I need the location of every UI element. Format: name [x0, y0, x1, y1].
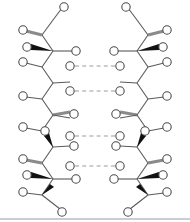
bond-R10-right-bold	[148, 160, 164, 163]
bond-L7-right-bold	[53, 112, 70, 115]
bond-R5-R6	[137, 83, 148, 99]
atom-node-o	[66, 87, 74, 95]
atom-node-o	[112, 110, 120, 118]
atom-node-o	[58, 208, 66, 216]
bond-L4-left	[26, 63, 42, 67]
atom-node-o	[70, 110, 78, 118]
atom-node-o	[112, 142, 120, 150]
bond-L12-down	[42, 195, 60, 209]
bond-R7-left2	[120, 115, 137, 118]
atom-node-o	[70, 142, 78, 150]
bond-L10-left-bold	[26, 160, 42, 163]
bond-R6-right	[148, 97, 164, 99]
bond-R1-R2	[137, 20, 148, 35]
atom-node-o	[60, 3, 68, 11]
atom-node-o	[110, 47, 118, 55]
atom-node-o	[163, 58, 171, 66]
wedge-R3-right	[137, 44, 159, 51]
atom-node-o	[41, 127, 49, 135]
bond-R4-right	[148, 63, 164, 67]
atom-node-o	[19, 26, 27, 34]
bond-R12-right	[148, 193, 164, 195]
atom-node-o	[159, 43, 167, 51]
bond-R9-R10	[137, 147, 148, 163]
bond-L6-left	[26, 97, 42, 99]
atom-node-o	[116, 62, 124, 70]
atom-node-o	[23, 171, 31, 179]
bond-L7-right2	[53, 115, 70, 118]
atom-node-o	[124, 208, 132, 216]
diagram-canvas	[0, 0, 190, 222]
atom-node-o	[163, 123, 171, 131]
atom-node-o	[19, 92, 27, 100]
bond-R9-left	[120, 146, 137, 147]
atom-node-o	[159, 171, 167, 179]
atom-node-o	[163, 92, 171, 100]
wedge-R11-right	[137, 172, 159, 179]
hydrogen-bonds	[75, 66, 115, 166]
atom-node-o	[110, 175, 118, 183]
atom-node-o	[116, 162, 124, 170]
atom-node-o	[19, 123, 27, 131]
bond-R4-R5	[137, 67, 148, 83]
wedge-L3-left	[31, 44, 53, 51]
atom-node-o	[122, 3, 130, 11]
bond-R5-left	[120, 82, 137, 83]
bond-L12-left	[26, 193, 42, 195]
bond-L8-left	[26, 128, 42, 131]
right-molecule	[110, 3, 171, 216]
atom-node-o	[72, 175, 80, 183]
atom-node-o	[163, 155, 171, 163]
bond-R7-left-bold	[120, 112, 137, 115]
bond-L1-L2	[42, 20, 53, 35]
bond-L6-L7	[42, 99, 53, 115]
left-molecule	[19, 3, 80, 216]
atom-node-o	[163, 26, 171, 34]
bond-R12-down	[130, 195, 148, 209]
bond-L9-L10	[42, 147, 53, 163]
wedge-L11-left	[31, 172, 53, 179]
atom-node-o	[72, 47, 80, 55]
bond-R6-R7	[137, 99, 148, 115]
bond-L4-L5	[42, 67, 53, 83]
atom-node-o	[66, 132, 74, 140]
atom-node-o	[19, 188, 27, 196]
bond-R8-right	[148, 128, 164, 131]
atom-node-o	[66, 62, 74, 70]
atom-node-o	[116, 87, 124, 95]
atom-node-o	[116, 132, 124, 140]
atom-node-o	[66, 162, 74, 170]
bond-L9-right	[53, 146, 70, 147]
left-backbone-bonds	[42, 20, 53, 195]
bond-L5-right	[53, 82, 70, 83]
atom-node-o	[19, 155, 27, 163]
bond-L3-L4	[42, 51, 53, 67]
atom-node-o	[163, 188, 171, 196]
atom-node-o	[19, 58, 27, 66]
bond-L5-L6	[42, 83, 53, 99]
bond-L2-left-bold	[26, 31, 42, 35]
bond-R2-right-bold	[148, 31, 164, 35]
atom-node-o	[141, 127, 149, 135]
right-backbone-bonds	[137, 20, 148, 195]
atom-node-o	[23, 43, 31, 51]
molecular-structure-svg	[0, 0, 190, 222]
bond-R3-R4	[137, 51, 148, 67]
